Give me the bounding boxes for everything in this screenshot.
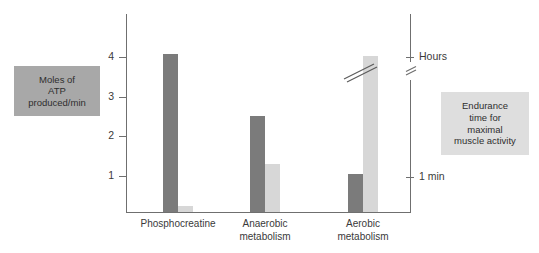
right-tick-mark-hours: [406, 57, 414, 58]
category-line-2: metabolism: [303, 231, 423, 244]
left-axis-title-line-2: ATP: [48, 85, 66, 97]
bar-atp-anaerobic: [250, 116, 265, 212]
category-line-1: Aerobic: [303, 218, 423, 231]
y-tick-mark-2: [119, 136, 127, 137]
x-axis: [126, 212, 411, 213]
y-tick-label-1: 1: [92, 169, 114, 181]
left-axis-title-line-1: Moles of: [39, 74, 75, 86]
right-axis-title-line-4: muscle activity: [454, 135, 516, 147]
left-axis-title-box: Moles of ATP produced/min: [14, 66, 100, 116]
y-axis-right: [410, 14, 411, 213]
right-tick-label-hours: Hours: [419, 50, 447, 62]
bar-atp-phosphocreatine: [163, 54, 178, 212]
right-axis-title-line-1: Endurance: [462, 100, 508, 112]
x-category-label-aerobic: Aerobic metabolism: [303, 218, 423, 243]
y-axis-left: [126, 14, 127, 213]
bar-endurance-aerobic: [363, 56, 378, 212]
y-tick-label-4: 4: [92, 50, 114, 62]
right-axis-title-line-3: maximal: [467, 124, 502, 136]
axis-break-icon: [404, 62, 418, 80]
bar-atp-aerobic: [348, 174, 363, 212]
y-tick-mark-3: [119, 97, 127, 98]
right-tick-mark-1min: [406, 177, 414, 178]
y-tick-mark-4: [119, 57, 127, 58]
right-axis-title-line-2: time for: [469, 112, 501, 124]
right-axis-title-box: Endurance time for maximal muscle activi…: [441, 92, 529, 155]
bar-endurance-anaerobic: [265, 164, 280, 212]
bar-endurance-phosphocreatine: [178, 206, 193, 212]
y-tick-mark-1: [119, 176, 127, 177]
right-tick-label-1min: 1 min: [419, 170, 445, 182]
left-axis-title-line-3: produced/min: [28, 97, 86, 109]
y-tick-label-2: 2: [92, 129, 114, 141]
